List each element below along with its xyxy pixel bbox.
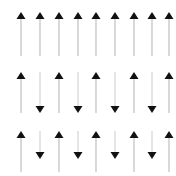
arrow-r3-c9 [162, 131, 176, 172]
arrow-r3-c1 [14, 131, 28, 172]
arrow-r1-c9 [162, 12, 176, 56]
arrow-lattice-canvas [0, 0, 176, 176]
arrow-r1-c8 [145, 12, 159, 56]
arrow-r1-c1 [14, 12, 28, 56]
arrow-r2-c5 [89, 72, 103, 113]
arrow-r3-c2 [33, 131, 47, 159]
arrow-r3-c3 [52, 131, 66, 172]
arrow-r2-c2 [33, 72, 47, 113]
arrow-r3-c7 [127, 131, 141, 172]
arrow-r1-c2 [33, 12, 47, 56]
arrow-r1-c7 [127, 12, 141, 56]
arrow-r2-c8 [145, 72, 159, 113]
arrow-r2-c1 [14, 72, 28, 113]
arrow-r3-c6 [108, 131, 122, 159]
arrow-r1-c5 [89, 12, 103, 56]
arrow-r2-c6 [108, 72, 122, 113]
arrow-r2-c7 [127, 72, 141, 113]
arrow-r3-c4 [71, 131, 85, 159]
arrow-r3-c8 [145, 131, 159, 159]
arrow-r2-c9 [162, 72, 176, 113]
arrow-r2-c3 [52, 72, 66, 113]
arrow-r1-c4 [71, 12, 85, 56]
arrow-r2-c4 [71, 72, 85, 113]
arrow-r1-c3 [52, 12, 66, 56]
arrow-r3-c5 [89, 131, 103, 172]
arrow-r1-c6 [108, 12, 122, 56]
